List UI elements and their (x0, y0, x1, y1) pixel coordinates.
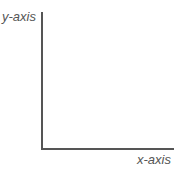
empty-axes-chart: y-axis x-axis (0, 0, 189, 172)
y-axis-label: y-axis (2, 9, 36, 24)
y-axis-line (41, 12, 43, 150)
x-axis-line (41, 148, 174, 150)
x-axis-label: x-axis (137, 152, 171, 167)
